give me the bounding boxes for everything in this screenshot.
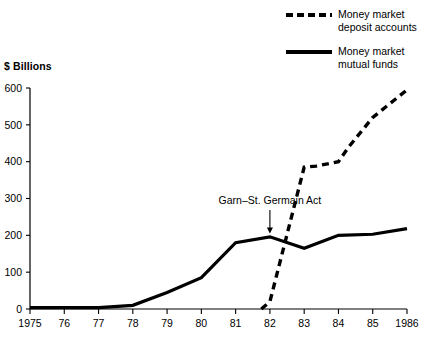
y-tick-label: 100 [4,266,22,278]
x-axis-ticks: 1975767778798081828384851986 [18,309,419,329]
x-tick-label: 80 [196,317,208,329]
y-axis-ticks: 0100200300400500600 [4,82,30,315]
x-tick-label: 84 [333,317,345,329]
x-tick-label: 79 [161,317,173,329]
y-tick-label: 300 [4,192,22,204]
x-tick-label: 83 [298,317,310,329]
y-tick-label: 0 [16,303,22,315]
x-tick-label: 1975 [18,317,42,329]
series-line-solid [30,229,407,308]
y-tick-label: 500 [4,119,22,131]
chart-annotations: Garn–St. Germain Act [219,194,322,233]
y-tick-label: 600 [4,82,22,94]
x-tick-label: 82 [264,317,276,329]
x-tick-label: 78 [127,317,139,329]
x-tick-label: 76 [58,317,70,329]
x-tick-label: 81 [230,317,242,329]
x-tick-label: 85 [367,317,379,329]
y-tick-label: 400 [4,155,22,167]
annotation-label: Garn–St. Germain Act [219,194,322,206]
y-tick-label: 200 [4,229,22,241]
plot-area: 0100200300400500600 19757677787980818283… [0,0,423,341]
chart-container: Money market deposit accounts Money mark… [0,0,423,341]
annotation-arrow-head-icon [267,227,273,233]
x-tick-label: 77 [93,317,105,329]
x-tick-label: 1986 [395,317,419,329]
